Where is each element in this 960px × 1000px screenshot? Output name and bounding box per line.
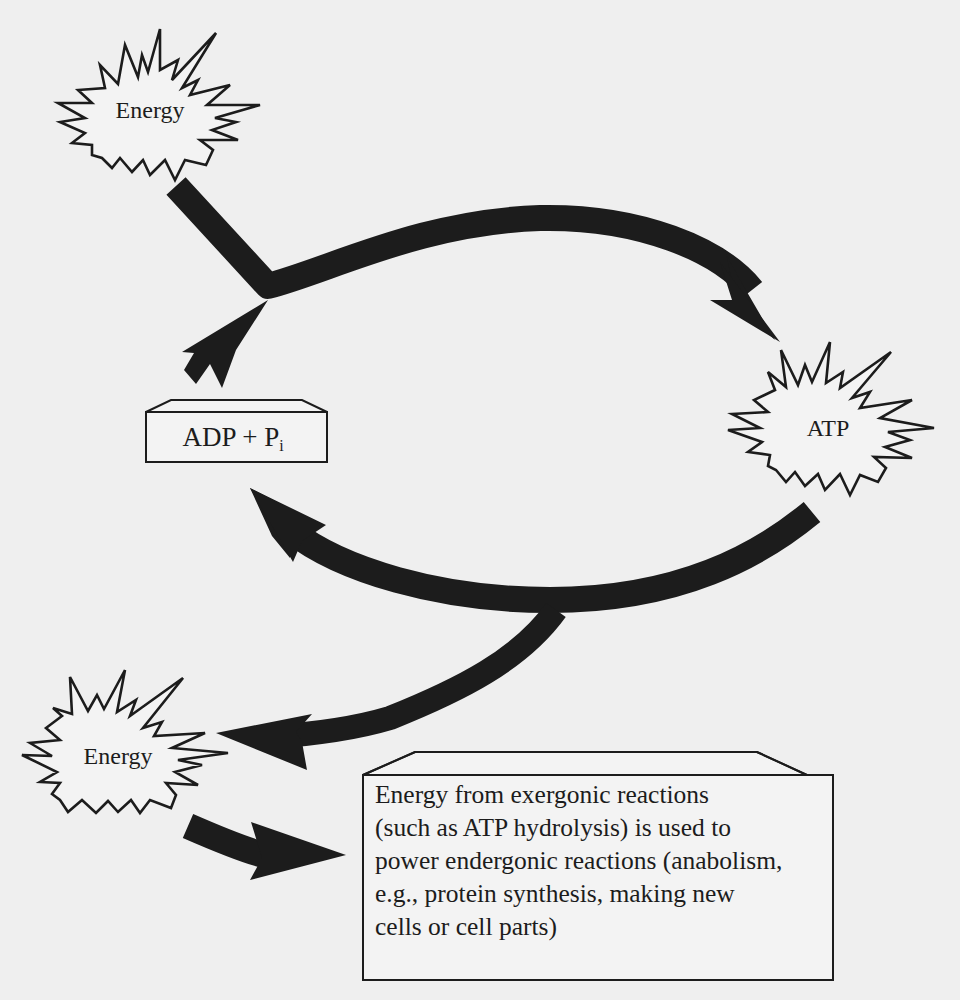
explanation-line: e.g., protein synthesis, making new bbox=[375, 877, 785, 910]
explanation-line: Energy from exergonic reactions bbox=[375, 778, 785, 811]
arrow-atp-to-adp-icon bbox=[250, 488, 812, 600]
explanation-line: (such as ATP hydrolysis) is used to bbox=[375, 811, 785, 844]
arrow-adp-to-junction-icon bbox=[182, 300, 268, 388]
explanation-text: Energy from exergonic reactions (such as… bbox=[375, 778, 785, 943]
arrow-energy-to-atp-icon bbox=[176, 186, 780, 342]
adp-label-subscript: i bbox=[279, 437, 283, 454]
energy-bottom-label: Energy bbox=[84, 743, 153, 770]
atp-cycle-diagram: Energy ATP ADP + Pi Energy Energy from e… bbox=[0, 0, 960, 1000]
arrow-energy-to-explanation-icon bbox=[188, 822, 346, 880]
arrow-atp-to-energy-icon bbox=[216, 610, 556, 770]
explanation-line: power endergonic reactions (anabolism, bbox=[375, 844, 785, 877]
atp-label: ATP bbox=[807, 415, 850, 442]
adp-label-main: ADP + P bbox=[182, 422, 279, 452]
energy-top-label: Energy bbox=[116, 97, 185, 124]
energy-bottom-burst-icon bbox=[22, 670, 228, 813]
explanation-line: cells or cell parts) bbox=[375, 910, 785, 943]
adp-label: ADP + Pi bbox=[182, 422, 283, 453]
